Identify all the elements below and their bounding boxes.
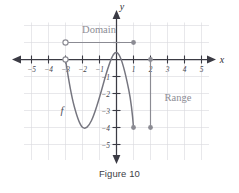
- x-tick-label--5: −5: [27, 65, 36, 74]
- y-tick-label--5: −5: [101, 141, 110, 150]
- function-name-label: f: [60, 104, 65, 116]
- y-tick-label--4: −4: [101, 124, 110, 133]
- x-axis: [12, 56, 216, 64]
- y-axis-label: y: [119, 1, 125, 12]
- figure-caption: Figure 10: [0, 168, 239, 179]
- y-tick-label--3: −3: [101, 107, 110, 116]
- x-axis-arrow-left: [12, 56, 21, 64]
- figure-10-graph: −5 −4 −3 −2 −1 1 2 3 4 5 −1: [0, 0, 239, 193]
- curve-filled-endpoint-right: [131, 125, 136, 130]
- range-filled-endpoint-bottom: [148, 125, 153, 130]
- x-axis-tick-labels: −5 −4 −3 −2 −1 1 2 3 4 5: [27, 65, 203, 74]
- domain-label: Domain: [82, 24, 117, 35]
- graph-svg: −5 −4 −3 −2 −1 1 2 3 4 5 −1: [0, 0, 239, 170]
- x-tick-label-4: 4: [183, 65, 187, 74]
- domain-open-endpoint-left: [63, 40, 68, 45]
- x-tick-label--2: −2: [78, 65, 87, 74]
- domain-filled-endpoint-right: [131, 40, 136, 45]
- x-tick-label--3: −3: [61, 65, 70, 74]
- y-tick-label--2: −2: [101, 90, 110, 99]
- range-label: Range: [165, 92, 192, 103]
- x-axis-arrow-right: [207, 56, 216, 64]
- curve-open-endpoint-left: [63, 57, 68, 62]
- y-axis-arrow-down: [113, 155, 121, 164]
- x-tick-label-5: 5: [200, 65, 204, 74]
- x-tick-label-3: 3: [165, 65, 170, 74]
- x-tick-label--4: −4: [44, 65, 53, 74]
- x-axis-label: x: [219, 54, 225, 65]
- range-filled-endpoint-top: [148, 57, 153, 62]
- x-tick-label-1: 1: [132, 65, 136, 74]
- coordinate-plane: −5 −4 −3 −2 −1 1 2 3 4 5 −1: [0, 0, 239, 170]
